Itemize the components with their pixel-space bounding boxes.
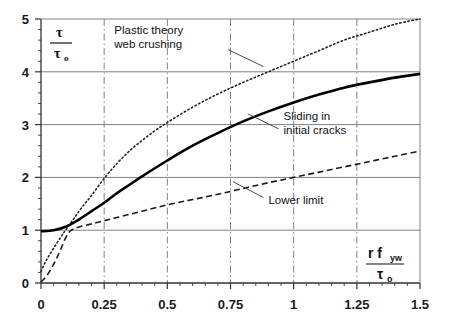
y-tick-label: 3: [22, 118, 29, 133]
x-axis-label-numerator: r f: [368, 245, 382, 261]
y-tick-label: 2: [22, 170, 29, 185]
x-tick-label: 1.25: [344, 297, 369, 312]
y-tick-label: 5: [22, 12, 29, 27]
annotation-label-lower-limit: Lower limit: [268, 194, 324, 206]
annotation-label-sliding-cracks: Sliding in: [284, 110, 331, 122]
grid-vertical-lines: [104, 19, 357, 283]
annotation-label-plastic-theory: web crushing: [113, 38, 182, 50]
x-axis-label-numerator-subscript: yw: [390, 253, 403, 263]
x-tick-label: 0.75: [218, 297, 243, 312]
y-axis-label-numerator: τ: [56, 25, 63, 40]
x-tick-label: 0.25: [92, 297, 117, 312]
x-axis-label: r f yw τ o: [366, 245, 404, 284]
annotation-label-plastic-theory: Plastic theory: [114, 24, 183, 36]
x-tick-label: 1.5: [411, 297, 429, 312]
y-axis-tick-labels: 012345: [22, 12, 30, 291]
annotation-labels: Plastic theoryweb crushingSliding ininit…: [113, 24, 346, 206]
y-axis-label-denominator-subscript: o: [64, 53, 69, 63]
y-axis-label-denominator: τ: [54, 46, 61, 61]
y-tick-label: 0: [22, 276, 29, 291]
y-axis-label: τ τ o: [50, 25, 72, 63]
annotation-leader-sliding-cracks: [248, 114, 278, 129]
x-tick-label: 0.5: [158, 297, 176, 312]
annotation-label-sliding-cracks: initial cracks: [284, 124, 347, 136]
x-tick-label: 0: [37, 297, 44, 312]
shear-capacity-chart: Plastic theoryweb crushingSliding ininit…: [0, 0, 449, 333]
chart-figure: Plastic theoryweb crushingSliding ininit…: [0, 0, 449, 333]
x-axis-label-denominator: τ: [377, 266, 384, 282]
annotation-leader-plastic-theory: [228, 50, 263, 67]
x-axis-label-denominator-subscript: o: [387, 274, 393, 284]
x-axis-tick-labels: 00.250.50.7511.251.5: [37, 297, 429, 312]
y-tick-label: 4: [22, 65, 30, 80]
grid-minor-ticks: [35, 19, 420, 289]
x-tick-label: 1: [290, 297, 297, 312]
y-tick-label: 1: [22, 223, 29, 238]
